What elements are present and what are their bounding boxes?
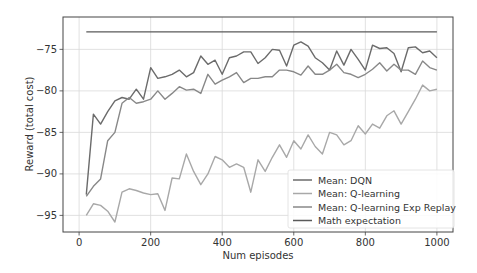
y-axis-label: Reward (total cost): [24, 76, 35, 171]
legend-label: Mean: Q-learning Exp Replay: [318, 202, 456, 213]
x-tick-label: 0: [76, 237, 82, 248]
legend-label: Math expectation: [318, 215, 401, 226]
y-tick-label: −75: [36, 44, 57, 55]
line-chart: 02004006008001000 −95−90−85−80−75 Num ep…: [0, 0, 477, 273]
legend-label: Mean: DQN: [318, 175, 372, 186]
x-tick-label: 1000: [424, 237, 449, 248]
y-tick-label: −95: [36, 210, 57, 221]
x-axis-ticks: 02004006008001000: [76, 232, 450, 248]
x-tick-label: 600: [284, 237, 303, 248]
y-tick-label: −80: [36, 85, 57, 96]
legend: Mean: DQNMean: Q-learningMean: Q-learnin…: [288, 170, 456, 228]
y-tick-label: −85: [36, 127, 57, 138]
y-tick-label: −90: [36, 168, 57, 179]
x-tick-label: 400: [213, 237, 232, 248]
x-tick-label: 800: [356, 237, 375, 248]
x-tick-label: 200: [141, 237, 160, 248]
chart: 02004006008001000 −95−90−85−80−75 Num ep…: [0, 0, 477, 273]
x-axis-label: Num episodes: [222, 250, 293, 261]
legend-label: Mean: Q-learning: [318, 188, 400, 199]
y-axis-ticks: −95−90−85−80−75: [36, 44, 63, 221]
